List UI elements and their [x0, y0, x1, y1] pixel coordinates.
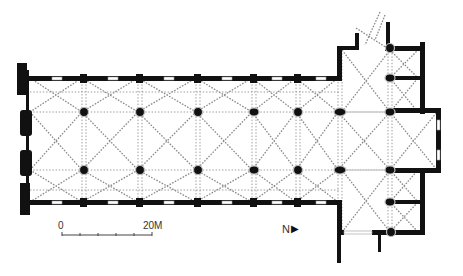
west-tower-north [17, 63, 27, 95]
scale-bar [62, 232, 152, 236]
walls [17, 22, 441, 263]
piers [80, 44, 396, 237]
floor-plan [0, 0, 463, 276]
north-label: N [282, 223, 290, 235]
north-arrow-icon: ▶ [291, 223, 299, 234]
vault-ribs [30, 12, 437, 232]
scale-end-label: 20M [143, 220, 162, 231]
scale-start-label: 0 [58, 220, 64, 231]
